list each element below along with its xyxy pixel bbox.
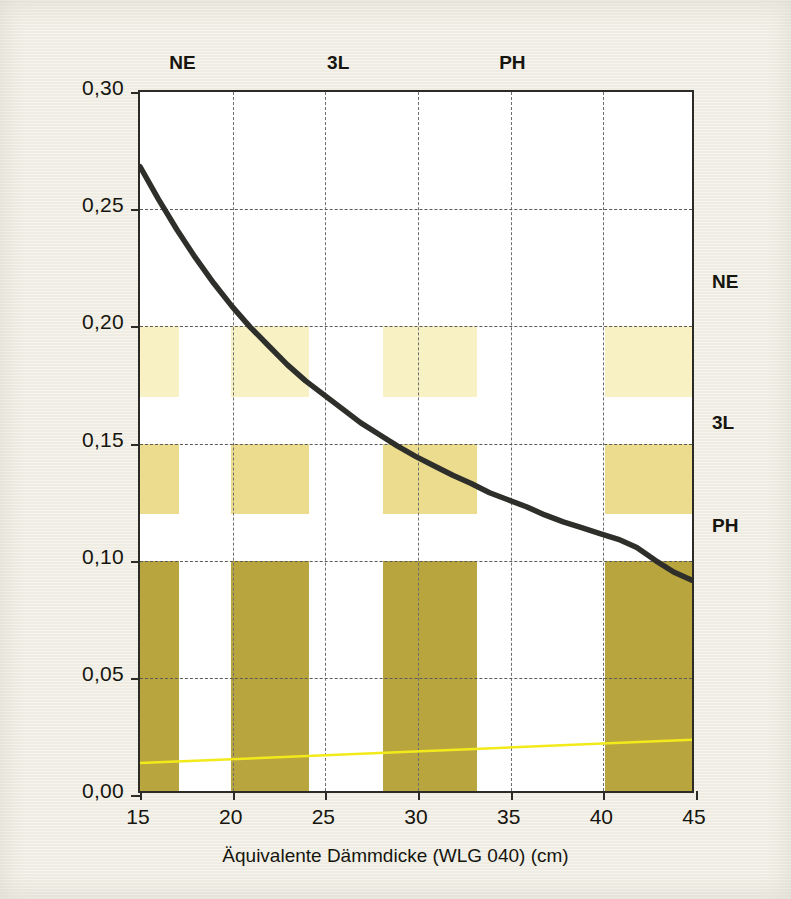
y-tick-label-0-25: 0,25	[34, 193, 124, 217]
plot-inner	[140, 92, 692, 791]
y-tick-0-05	[131, 678, 140, 680]
curve-layer	[140, 92, 692, 791]
y-tick-0-2	[131, 326, 140, 328]
x-tick-15	[140, 791, 142, 800]
secondary-line	[140, 740, 692, 763]
x-tick-label-35: 35	[479, 805, 539, 829]
x-tick-label-15: 15	[108, 805, 168, 829]
y-tick-0-1	[131, 561, 140, 563]
x-tick-label-30: 30	[386, 805, 446, 829]
top-label-ph: PH	[482, 52, 542, 74]
y-tick-0-25	[131, 209, 140, 211]
u-value-curve	[140, 167, 692, 581]
x-tick-30	[418, 791, 420, 800]
y-tick-0-15	[131, 444, 140, 446]
x-tick-40	[603, 791, 605, 800]
y-tick-0-3	[131, 92, 140, 94]
x-tick-label-25: 25	[293, 805, 353, 829]
x-tick-25	[325, 791, 327, 800]
right-label-ne: NE	[712, 271, 772, 293]
y-tick-label-0-15: 0,15	[34, 428, 124, 452]
y-tick-label-0-30: 0,30	[34, 76, 124, 100]
x-tick-20	[233, 791, 235, 800]
right-label-3l: 3L	[712, 412, 772, 434]
x-tick-35	[511, 791, 513, 800]
y-tick-label-0-00: 0,00	[34, 779, 124, 803]
plot-area	[138, 90, 694, 793]
y-tick-label-0-20: 0,20	[34, 310, 124, 334]
y-tick-label-0-10: 0,10	[34, 545, 124, 569]
chart-figure: NE3LPH NE3LPH U-Wert (W/m²K) Äquivalente…	[0, 0, 791, 899]
y-tick-0	[131, 795, 140, 797]
x-tick-label-45: 45	[664, 805, 724, 829]
right-label-ph: PH	[712, 515, 772, 537]
x-axis-title: Äquivalente Dämmdicke (WLG 040) (cm)	[0, 845, 791, 867]
x-tick-label-20: 20	[201, 805, 261, 829]
x-tick-45	[696, 791, 698, 800]
x-tick-label-40: 40	[571, 805, 631, 829]
y-tick-label-0-05: 0,05	[34, 662, 124, 686]
top-label-ne: NE	[152, 52, 212, 74]
top-label-3l: 3L	[308, 52, 368, 74]
